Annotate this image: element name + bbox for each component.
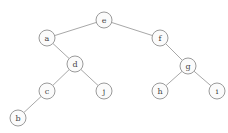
tree-nodes: eafdgcjhib xyxy=(10,12,225,126)
edge-e-a xyxy=(55,22,97,35)
node-label: d xyxy=(72,60,77,69)
tree-node-b: b xyxy=(10,110,26,126)
node-label: j xyxy=(102,87,105,96)
tree-node-c: c xyxy=(39,83,55,99)
node-label: e xyxy=(102,16,107,25)
edge-g-h xyxy=(166,71,182,85)
node-label: g xyxy=(185,62,190,71)
edge-d-j xyxy=(81,69,98,85)
tree-node-g: g xyxy=(180,58,196,74)
node-label: i xyxy=(216,87,219,96)
edge-g-i xyxy=(194,71,211,86)
node-label: a xyxy=(45,34,50,43)
edge-a-d xyxy=(53,43,69,58)
tree-node-d: d xyxy=(67,56,83,72)
tree-node-a: a xyxy=(39,30,55,46)
binary-tree-diagram: eafdgcjhib xyxy=(0,0,228,133)
node-label: c xyxy=(45,87,50,96)
edge-f-g xyxy=(166,44,183,61)
tree-node-f: f xyxy=(152,30,168,46)
node-label: h xyxy=(157,87,162,96)
tree-node-h: h xyxy=(152,83,168,99)
tree-node-j: j xyxy=(96,83,112,99)
tree-node-i: i xyxy=(209,83,225,99)
edge-d-c xyxy=(53,70,69,86)
node-label: b xyxy=(15,114,20,123)
edge-c-b xyxy=(24,96,41,112)
edge-e-f xyxy=(112,22,153,35)
tree-node-e: e xyxy=(96,12,112,28)
